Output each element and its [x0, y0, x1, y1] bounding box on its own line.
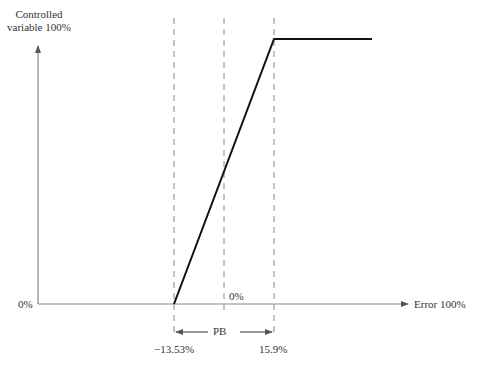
y-axis-label: Controlled variable 100%	[4, 8, 74, 34]
right-tick-label: 15.9%	[259, 343, 287, 356]
x-axis-label: Error 100%	[414, 298, 466, 311]
pb-label: PB	[213, 325, 226, 338]
controller-response-line	[174, 39, 372, 304]
proportional-band-diagram	[0, 0, 478, 370]
y-axis-label-line2: variable 100%	[4, 21, 74, 34]
y-zero-label: 0%	[18, 298, 33, 311]
left-tick-label: −13.53%	[154, 343, 194, 356]
y-axis-label-line1: Controlled	[4, 8, 74, 21]
x-zero-label: 0%	[229, 290, 244, 303]
